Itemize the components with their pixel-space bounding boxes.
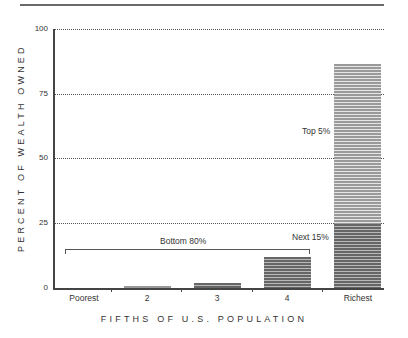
gridline-100 [54, 29, 384, 30]
x-axis-title: FIFTHS OF U.S. POPULATION [0, 314, 408, 324]
x-axis [53, 288, 384, 290]
y-axis [53, 29, 55, 289]
bar-richest-next15 [334, 224, 381, 288]
xlabel-4: 4 [257, 293, 317, 303]
next15-label: Next 15% [292, 232, 329, 242]
bottom80-bracket [65, 249, 310, 254]
bar-richest-top5 [334, 64, 381, 224]
bar-fifth-4 [264, 257, 311, 288]
top-rule [20, 4, 384, 6]
top5-label: Top 5% [302, 126, 330, 136]
xtick [252, 288, 253, 292]
y-axis-title: PERCENT OF WEALTH OWNED [16, 44, 26, 252]
ytick-label-0: 0 [18, 283, 48, 292]
xlabel-2: 2 [117, 293, 177, 303]
xtick [111, 288, 112, 292]
xlabel-3: 3 [187, 293, 247, 303]
ytick-label-100: 100 [18, 24, 48, 33]
xlabel-poorest: Poorest [54, 293, 114, 303]
xlabel-richest: Richest [328, 293, 388, 303]
bottom80-label: Bottom 80% [160, 236, 206, 246]
xtick [322, 288, 323, 292]
xtick [181, 288, 182, 292]
